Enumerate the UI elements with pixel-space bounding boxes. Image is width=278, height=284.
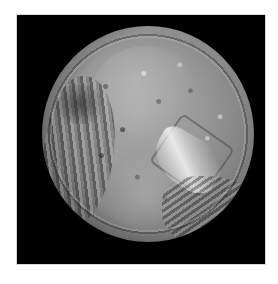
- bright-cliff-spot: [197, 231, 205, 241]
- limb-ridges: [42, 26, 254, 242]
- photo-frame: [17, 15, 265, 264]
- moon-disc: [42, 26, 254, 242]
